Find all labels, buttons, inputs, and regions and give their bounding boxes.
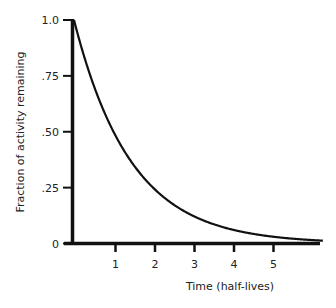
x-tick-label: 2 xyxy=(152,258,159,271)
axes xyxy=(64,19,320,245)
y-ticks: 0.25.50.751.0 xyxy=(42,14,73,251)
y-tick-label: .25 xyxy=(42,182,60,195)
y-tick-label: .50 xyxy=(42,126,60,139)
decay-curve xyxy=(74,20,323,241)
y-tick-label: 1.0 xyxy=(42,14,60,27)
x-ticks: 12345 xyxy=(112,244,277,271)
y-tick-label: .75 xyxy=(42,70,60,83)
decay-chart: 0.25.50.751.0 12345 Time (half-lives) Fr… xyxy=(0,0,336,308)
x-tick-label: 3 xyxy=(191,258,198,271)
x-tick-label: 1 xyxy=(112,258,119,271)
y-tick-label: 0 xyxy=(52,238,59,251)
y-axis-title: Fraction of activity remaining xyxy=(14,51,27,212)
x-tick-label: 5 xyxy=(270,258,277,271)
x-axis-title: Time (half-lives) xyxy=(185,280,274,293)
x-tick-label: 4 xyxy=(231,258,238,271)
